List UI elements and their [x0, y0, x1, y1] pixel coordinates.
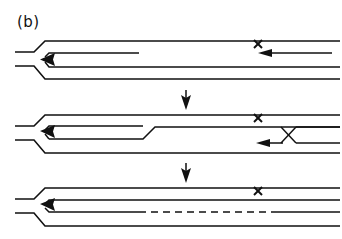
stage1-inner-lower-line [45, 62, 340, 67]
stage-initial [15, 40, 340, 79]
stage2-right-arrowhead [256, 139, 270, 147]
figure-container: (b) [0, 0, 342, 239]
stage3-inner-upper-line [45, 200, 340, 204]
stage-final [15, 187, 340, 226]
stage3-upper-rail [15, 188, 340, 199]
stage2-x-crossing [281, 127, 340, 143]
stage1-right-arrowhead [258, 49, 272, 57]
stage2-loop-upper-stub [45, 126, 143, 130]
stage1-upper-rail [15, 41, 340, 52]
stage3-left-arrowhead [40, 198, 55, 211]
transition-arrow-2 [181, 163, 191, 183]
stage2-lower-rail [15, 140, 340, 153]
stage2-upper-rail [15, 115, 340, 126]
transition-arrow-1 [181, 90, 191, 110]
stage-middle [15, 114, 340, 153]
stage3-lower-rail [15, 213, 340, 226]
stage1-inner-upper-line [45, 53, 139, 57]
stage1-lower-rail [15, 66, 340, 79]
stage3-inner-lower-solid-left [45, 208, 139, 212]
stage2-loop-upper-path [49, 127, 340, 139]
figure-canvas: (b) [0, 0, 342, 239]
panel-label: (b) [17, 13, 40, 31]
